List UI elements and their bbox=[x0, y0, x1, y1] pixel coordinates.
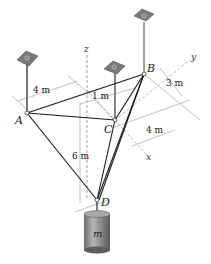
tripod-cable-diagram: z y x 4 m 1 m 3 m 4 m 6 m bbox=[0, 0, 211, 264]
label-a: A bbox=[14, 114, 23, 127]
y-axis-label: y bbox=[190, 52, 197, 62]
mass-label: m bbox=[93, 228, 102, 239]
z-axis: z bbox=[83, 44, 89, 200]
support-posts bbox=[27, 22, 144, 120]
dim-4m-ab: 4 m bbox=[33, 85, 51, 95]
dim-1m: 1 m bbox=[92, 91, 110, 101]
joint-c bbox=[113, 118, 117, 122]
label-b: B bbox=[146, 62, 155, 75]
support-plate-c bbox=[104, 61, 125, 74]
y-axis: y bbox=[115, 52, 197, 120]
label-d: D bbox=[100, 196, 110, 209]
joint-b bbox=[142, 72, 146, 76]
dim-6m: 6 m bbox=[72, 151, 90, 161]
support-plate-a bbox=[17, 51, 38, 66]
joint-d bbox=[95, 198, 99, 202]
z-axis-label: z bbox=[83, 44, 89, 54]
dim-3m: 3 m bbox=[166, 78, 184, 88]
x-axis-label: x bbox=[146, 152, 151, 162]
joint-a bbox=[25, 111, 29, 115]
mass-cylinder: m bbox=[84, 202, 110, 254]
support-plate-b bbox=[134, 9, 154, 21]
cable-ac bbox=[27, 113, 115, 120]
dim-4m-c: 4 m bbox=[146, 125, 164, 135]
label-c: C bbox=[104, 123, 113, 136]
